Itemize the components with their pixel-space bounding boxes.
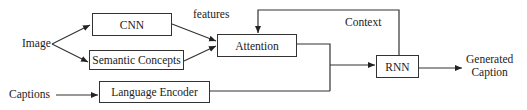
input-image-label: Image — [22, 37, 51, 49]
rnn-node: RNN — [376, 55, 419, 78]
edge-image-cnn — [52, 25, 90, 44]
output-line2: Caption — [466, 66, 513, 79]
edge-semantic-attention — [184, 46, 216, 61]
cnn-node: CNN — [92, 13, 172, 36]
edge-cnn-attention — [172, 24, 216, 41]
output-label: Generated Caption — [466, 53, 513, 79]
features-label: features — [193, 8, 229, 20]
input-captions-label: Captions — [9, 88, 50, 100]
semantic-concepts-node: Semantic Concepts — [89, 50, 184, 70]
attention-node: Attention — [217, 34, 297, 57]
context-label: Context — [345, 16, 381, 28]
edge-image-semantic — [52, 44, 88, 62]
language-encoder-node: Language Encoder — [99, 81, 210, 103]
edge-attention-out — [297, 44, 330, 91]
output-line1: Generated — [466, 53, 513, 66]
